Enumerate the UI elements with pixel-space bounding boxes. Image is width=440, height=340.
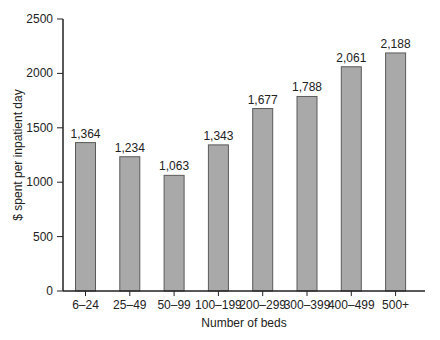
bar-value-label: 2,061 [336,51,366,65]
x-tick-label: 100–199 [195,298,242,312]
bar-value-label: 1,063 [159,159,189,173]
y-tick-label: 2000 [26,66,53,80]
bar-value-label: 1,364 [70,127,100,141]
x-tick-label: 25–49 [113,298,147,312]
x-axis-ticks: 6–2425–4950–99100–199200–299300–399400–4… [72,291,409,312]
bar-value-label: 1,677 [248,93,278,107]
x-tick-label: 400–499 [328,298,375,312]
bar [76,143,96,291]
y-axis-ticks: 05001000150020002500 [26,12,63,298]
bar-chart: 05001000150020002500 1,3641,2341,0631,34… [0,0,440,340]
y-tick-label: 1500 [26,121,53,135]
bar [253,109,273,291]
y-tick-label: 2500 [26,12,53,26]
bar [341,67,361,291]
bar-value-label: 1,343 [203,129,233,143]
x-tick-label: 300–399 [284,298,331,312]
bar-value-label: 1,788 [292,80,322,94]
bar-value-label: 2,188 [381,37,411,51]
x-tick-label: 500+ [382,298,409,312]
y-tick-label: 1000 [26,175,53,189]
y-axis-title: $ spent per inpatient day [11,89,25,220]
bar [386,53,406,291]
bar [208,145,228,291]
bar-value-label: 1,234 [115,141,145,155]
x-tick-label: 50–99 [157,298,191,312]
y-tick-label: 0 [46,284,53,298]
x-tick-label: 6–24 [72,298,99,312]
x-axis-title: Number of beds [201,316,286,330]
bars: 1,3641,2341,0631,3431,6771,7882,0612,188 [70,37,410,291]
bar [297,96,317,291]
bar [164,175,184,291]
bar [120,157,140,291]
y-tick-label: 500 [33,230,53,244]
x-tick-label: 200–299 [239,298,286,312]
